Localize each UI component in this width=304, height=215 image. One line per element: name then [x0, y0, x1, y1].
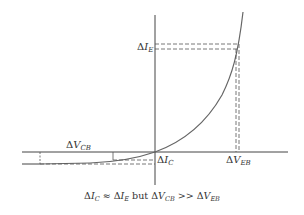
characteristic-diagram — [0, 0, 304, 215]
subscript: E — [148, 46, 153, 54]
subscript: C — [168, 159, 173, 167]
diagram-caption: ΔIC ≈ ΔIE but ΔVCB >> ΔVEB — [0, 190, 304, 203]
caption-delta: Δ — [84, 190, 91, 201]
caption-delta: Δ — [197, 190, 204, 201]
subscript: EB — [240, 159, 250, 167]
delta-ic-label: ΔIC — [157, 154, 174, 167]
caption-var: V — [158, 190, 165, 201]
caption-delta: Δ — [114, 190, 121, 201]
caption-delta: Δ — [151, 190, 158, 201]
delta-vcb-label: ΔVCB — [66, 139, 91, 152]
caption-sub: EB — [210, 195, 220, 203]
caption-approx: ≈ — [100, 190, 114, 201]
caption-but: but — [129, 190, 151, 201]
subscript: CB — [80, 144, 91, 152]
caption-much-greater: >> — [175, 190, 197, 201]
delta-ie-label: ΔIE — [137, 41, 153, 54]
caption-sub: CB — [165, 195, 175, 203]
delta-veb-label: ΔVEB — [226, 154, 251, 167]
